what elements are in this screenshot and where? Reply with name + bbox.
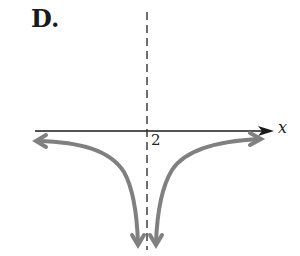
left-branch-curve (36, 135, 144, 245)
right-branch-curve (150, 133, 261, 245)
graph (0, 0, 300, 256)
x-axis (35, 126, 274, 136)
